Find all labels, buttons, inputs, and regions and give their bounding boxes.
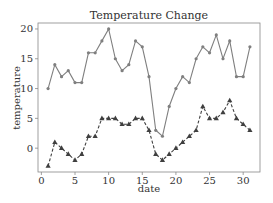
- x-axis-label: date: [138, 183, 160, 194]
- chart-title: Temperature Change: [90, 9, 208, 22]
- circle-marker: [208, 51, 211, 54]
- circle-marker: [80, 81, 83, 84]
- circle-marker: [114, 57, 117, 60]
- y-axis-label: temperature: [11, 66, 22, 130]
- triangle-marker: [140, 116, 145, 121]
- series-line-low: [48, 100, 250, 166]
- triangle-marker: [200, 104, 205, 109]
- triangle-marker: [153, 151, 158, 156]
- y-tick-label: 0: [27, 143, 33, 154]
- circle-marker: [168, 105, 171, 108]
- circle-marker: [161, 135, 164, 138]
- series-line-high: [48, 29, 250, 136]
- circle-marker: [154, 129, 157, 132]
- triangle-marker: [72, 157, 77, 162]
- circle-marker: [235, 75, 238, 78]
- circle-marker: [194, 57, 197, 60]
- circle-marker: [120, 69, 123, 72]
- circle-marker: [127, 63, 130, 66]
- circle-marker: [174, 87, 177, 90]
- triangle-marker: [220, 110, 225, 115]
- circle-marker: [67, 69, 70, 72]
- y-tick-label: 15: [20, 53, 33, 64]
- circle-marker: [100, 39, 103, 42]
- x-tick-label: 0: [38, 175, 44, 186]
- circle-marker: [228, 39, 231, 42]
- circle-marker: [87, 51, 90, 54]
- circle-marker: [107, 27, 110, 30]
- triangle-marker: [234, 116, 239, 121]
- y-tick-label: 10: [20, 83, 33, 94]
- circle-marker: [188, 81, 191, 84]
- circle-marker: [141, 45, 144, 48]
- x-tick-label: 10: [102, 175, 115, 186]
- triangle-marker: [45, 163, 50, 168]
- y-tick-label: 5: [27, 113, 33, 124]
- circle-marker: [147, 75, 150, 78]
- circle-marker: [221, 57, 224, 60]
- circle-marker: [248, 45, 251, 48]
- triangle-marker: [93, 133, 98, 138]
- circle-marker: [46, 87, 49, 90]
- line-chart: Temperature Change 051015202530 05101520…: [0, 0, 273, 203]
- circle-marker: [53, 63, 56, 66]
- x-tick-label: 30: [237, 175, 250, 186]
- plot-frame: [38, 23, 260, 172]
- series-group: [45, 27, 252, 167]
- triangle-marker: [193, 127, 198, 132]
- x-tick-label: 25: [203, 175, 216, 186]
- triangle-marker: [52, 139, 57, 144]
- triangle-marker: [207, 116, 212, 121]
- circle-marker: [201, 45, 204, 48]
- circle-marker: [215, 33, 218, 36]
- triangle-marker: [66, 151, 71, 156]
- x-tick-label: 20: [170, 175, 183, 186]
- circle-marker: [242, 75, 245, 78]
- y-axis-ticks: 05101520: [20, 23, 38, 153]
- circle-marker: [134, 39, 137, 42]
- x-tick-label: 5: [72, 175, 78, 186]
- triangle-marker: [167, 151, 172, 156]
- triangle-marker: [173, 145, 178, 150]
- circle-marker: [73, 81, 76, 84]
- circle-marker: [60, 75, 63, 78]
- triangle-marker: [227, 98, 232, 103]
- y-tick-label: 20: [20, 23, 33, 34]
- triangle-marker: [79, 151, 84, 156]
- circle-marker: [94, 51, 97, 54]
- circle-marker: [181, 75, 184, 78]
